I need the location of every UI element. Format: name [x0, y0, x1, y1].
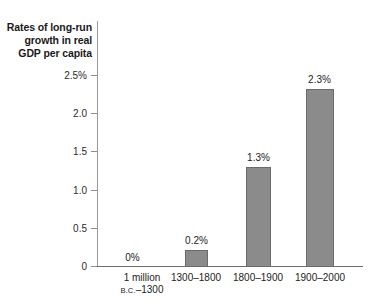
- bar-value-label: 1.3%: [236, 153, 281, 163]
- bar-value-label: 0.2%: [174, 236, 219, 246]
- x-label-years: –1300: [136, 284, 164, 295]
- y-tick-label: 0: [81, 262, 87, 272]
- y-tick-mark: [91, 75, 97, 76]
- bar-value-label: 2.3%: [297, 75, 342, 85]
- y-tick-mark: [91, 113, 97, 114]
- chart-title: Rates of long-run growth in real GDP per…: [2, 21, 92, 61]
- y-tick-label: 0.5: [73, 224, 87, 234]
- bar: [246, 167, 271, 267]
- x-axis-category-label: 1900–2000: [275, 272, 365, 284]
- bar-value-label: 0%: [110, 253, 155, 263]
- y-tick-label: 1.5: [73, 147, 87, 157]
- bar: [306, 89, 334, 267]
- y-tick-mark: [91, 266, 97, 267]
- bar-chart-figure: Rates of long-run growth in real GDP per…: [0, 0, 370, 304]
- bar: [185, 250, 208, 267]
- y-tick-label: 2.5%: [64, 71, 87, 81]
- x-label-line1: 1900–2000: [295, 272, 345, 283]
- y-tick-label: 2.0: [73, 109, 87, 119]
- x-label-line2: B.C.–1300: [97, 284, 187, 297]
- y-tick-mark: [91, 151, 97, 152]
- y-tick-mark: [91, 228, 97, 229]
- y-tick-mark: [91, 190, 97, 191]
- y-tick-label: 1.0: [73, 186, 87, 196]
- x-label-era: B.C.: [121, 286, 136, 295]
- y-axis-line: [97, 21, 98, 267]
